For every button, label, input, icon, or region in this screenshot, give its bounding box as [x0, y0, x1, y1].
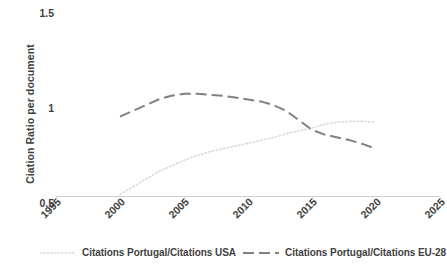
legend-label: Citations Portugal/Citations USA: [82, 247, 236, 258]
x-tick-label: 1995: [38, 195, 63, 220]
x-tick-label: 2025: [422, 195, 447, 220]
x-tick-label: 2010: [230, 195, 255, 220]
x-tick-label: 2020: [358, 195, 383, 220]
x-tick-label: 2000: [102, 195, 127, 220]
x-tick-label: 2015: [294, 195, 319, 220]
legend-label: Citations Portugal/Citations EU-28: [285, 247, 446, 258]
legend-item-citations-portugal-eu28[interactable]: Citations Portugal/Citations EU-28: [243, 244, 446, 260]
x-tick-label: 2005: [166, 195, 191, 220]
chart-legend: Citations Portugal/Citations USA Citatio…: [0, 244, 446, 266]
legend-item-citations-portugal-usa[interactable]: Citations Portugal/Citations USA: [40, 244, 236, 260]
legend-swatch-dotted-icon: [40, 251, 76, 253]
legend-swatch-dashed-icon: [243, 251, 279, 253]
